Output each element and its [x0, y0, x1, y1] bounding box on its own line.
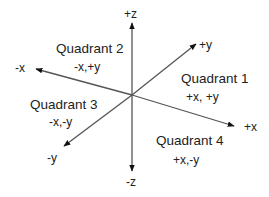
quadrant-3-signs: -x,-y — [49, 115, 72, 129]
quadrant-3-title: Quadrant 3 — [30, 97, 98, 112]
quadrant-1-signs: +x, +y — [186, 90, 219, 104]
x-axis-positive-line — [132, 95, 234, 126]
neg-y-label: -y — [47, 151, 57, 165]
y-axis-positive-line — [132, 44, 196, 95]
quadrant-4-title: Quadrant 4 — [156, 133, 224, 148]
pos-z-label: +z — [124, 7, 137, 21]
quadrant-2-signs: -x,+y — [74, 60, 100, 74]
quadrant-1-title: Quadrant 1 — [181, 71, 249, 86]
pos-y-label: +y — [199, 38, 212, 52]
quadrant-2-title: Quadrant 2 — [56, 41, 124, 56]
neg-z-label: -z — [126, 175, 136, 189]
pos-x-label: +x — [244, 120, 257, 134]
neg-x-label: -x — [15, 61, 25, 75]
quadrant-4-signs: +x,-y — [173, 153, 199, 167]
coordinate-axes-diagram: +z -z -x +x +y -y Quadrant 2 -x,+y Quadr… — [0, 0, 269, 197]
